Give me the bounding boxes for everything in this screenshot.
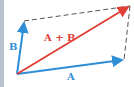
vector-b-arrow (17, 23, 24, 74)
label-sum: A + B (44, 33, 76, 43)
label-a: A (67, 72, 75, 82)
label-b: B (9, 42, 17, 52)
diagram-canvas: B A + B A (0, 0, 134, 87)
dashed-right-edge (124, 6, 130, 60)
dashed-top-edge (24, 6, 130, 21)
